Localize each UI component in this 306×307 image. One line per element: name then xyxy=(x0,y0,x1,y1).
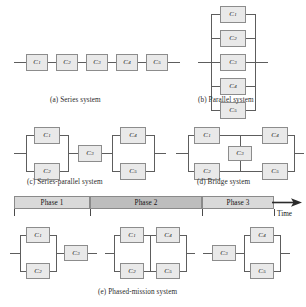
sp-block-c3-label: C xyxy=(86,150,91,157)
sp-stub-r-c4 xyxy=(146,135,154,136)
bridge-block-c3: C3 xyxy=(228,146,252,161)
sp-block-c5-label: C xyxy=(129,168,134,175)
phase-tick-0 xyxy=(14,209,15,216)
pm2-block-c2: C2 xyxy=(120,263,144,279)
time-axis-label: Time xyxy=(277,210,292,218)
pm3-block-c3-label: C xyxy=(220,250,225,257)
parallel-block-c1-sub: 1 xyxy=(234,12,237,17)
bridge-bus-left xyxy=(188,135,189,172)
bridge-block-c4-sub: 4 xyxy=(276,133,279,138)
bridge-block-c5: C5 xyxy=(262,163,288,180)
pm1-block-c3-sub: 3 xyxy=(77,251,80,256)
sp-stub-l-c4 xyxy=(112,135,120,136)
series-block-c5-sub: 5 xyxy=(158,60,161,65)
parallel-block-c2-sub: 2 xyxy=(234,36,237,41)
sp-bus-left-2 xyxy=(112,135,113,172)
phase-segment-2: Phase 2 xyxy=(90,196,202,209)
pm3-block-c5-label: C xyxy=(258,268,263,275)
pm2-block-c1: C1 xyxy=(120,227,144,243)
sp-block-c1-sub: 1 xyxy=(48,133,51,138)
caption-series-parallel-system: (c) Series-parallel system xyxy=(27,178,103,186)
parallel-stub-l5 xyxy=(211,110,220,111)
parallel-block-c3: C3 xyxy=(220,54,246,71)
sp-wire-out xyxy=(154,153,166,154)
bridge-cross-top xyxy=(240,135,241,146)
sp-block-c1: C1 xyxy=(34,127,60,144)
parallel-stub-r2 xyxy=(246,38,255,39)
pm1-block-c2: C2 xyxy=(26,263,50,279)
pm2-bus-mid xyxy=(150,235,151,272)
pm1-bus-left xyxy=(20,235,21,272)
parallel-block-c3-label: C xyxy=(229,59,234,66)
parallel-block-c1-label: C xyxy=(229,11,234,18)
series-block-c3-label: C xyxy=(93,59,98,66)
sp-block-c3-sub: 3 xyxy=(91,151,94,156)
bridge-block-c1-label: C xyxy=(203,132,208,139)
bridge-block-c5-label: C xyxy=(271,168,276,175)
pm3-bus-left xyxy=(244,235,245,272)
bridge-block-c2-label: C xyxy=(203,168,208,175)
series-block-c4: C4 xyxy=(116,54,138,71)
pm3-wire-out xyxy=(280,253,290,254)
series-wire-1-2 xyxy=(48,62,56,63)
pm2-wire-out xyxy=(186,253,195,254)
sp-wire-mid-in xyxy=(68,153,78,154)
pm1-block-c1-label: C xyxy=(34,232,39,239)
sp-stub-r-c5 xyxy=(146,171,154,172)
sp-block-c4-sub: 4 xyxy=(134,133,137,138)
bridge-block-c5-sub: 5 xyxy=(276,169,279,174)
parallel-block-c1: C1 xyxy=(220,6,246,23)
sp-stub-r-c2 xyxy=(60,171,68,172)
caption-bridge-system: (d) Bridge system xyxy=(197,178,250,186)
series-block-c2: C2 xyxy=(56,54,78,71)
pm3-block-c3: C3 xyxy=(212,245,236,261)
phase-segment-1: Phase 1 xyxy=(14,196,90,209)
series-block-c4-label: C xyxy=(123,59,128,66)
reliability-block-diagram-figure: C1 C2 C3 C4 C5 (a) Series system C1 xyxy=(0,0,306,307)
caption-phased-mission-system: (e) Phased-mission system xyxy=(98,288,177,296)
series-block-c2-label: C xyxy=(63,59,68,66)
parallel-stub-l2 xyxy=(211,38,220,39)
pm1-block-c2-label: C xyxy=(34,268,39,275)
parallel-block-c4-label: C xyxy=(229,83,234,90)
parallel-stub-r3 xyxy=(246,62,255,63)
bridge-wire-in xyxy=(176,153,188,154)
series-block-c4-sub: 4 xyxy=(128,60,131,65)
parallel-block-c5-sub: 5 xyxy=(234,108,237,113)
parallel-block-c2: C2 xyxy=(220,30,246,47)
bridge-top-rail xyxy=(220,135,262,136)
pm3-wire-in xyxy=(203,253,212,254)
pm2-block-c4-label: C xyxy=(164,232,169,239)
bridge-block-c3-label: C xyxy=(236,150,241,157)
pm1-wire-out xyxy=(88,253,97,254)
pm2-block-c4-sub: 4 xyxy=(169,233,172,238)
bridge-block-c1: C1 xyxy=(194,127,220,144)
bridge-bottom-rail xyxy=(220,171,262,172)
pm3-block-c3-sub: 3 xyxy=(225,251,228,256)
pm2-block-c1-sub: 1 xyxy=(133,233,136,238)
sp-wire-mid-out xyxy=(102,153,112,154)
parallel-stub-r4 xyxy=(246,86,255,87)
series-block-c3-sub: 3 xyxy=(98,60,101,65)
sp-block-c5: C5 xyxy=(120,163,146,180)
pm2-wire-in xyxy=(105,253,114,254)
sp-stub-r-c1 xyxy=(60,135,68,136)
parallel-stub-l3 xyxy=(211,62,220,63)
series-wire-in xyxy=(14,62,26,63)
bridge-block-c3-sub: 3 xyxy=(241,151,244,156)
pm2-block-c5: C5 xyxy=(156,263,180,279)
parallel-block-c4-sub: 4 xyxy=(234,84,237,89)
phase-segment-3-label: Phase 3 xyxy=(227,199,250,207)
pm3-block-c5-sub: 5 xyxy=(263,269,266,274)
sp-block-c5-sub: 5 xyxy=(134,169,137,174)
pm2-block-c2-sub: 2 xyxy=(133,269,136,274)
pm2-block-c1-label: C xyxy=(128,232,133,239)
series-wire-4-5 xyxy=(138,62,146,63)
caption-series-system: (a) Series system xyxy=(50,96,101,104)
pm2-block-c5-label: C xyxy=(164,268,169,275)
series-block-c1: C1 xyxy=(26,54,48,71)
pm1-block-c3-label: C xyxy=(72,250,77,257)
phase-tick-2 xyxy=(202,209,203,216)
sp-block-c2-sub: 2 xyxy=(48,169,51,174)
parallel-stub-r1 xyxy=(246,14,255,15)
